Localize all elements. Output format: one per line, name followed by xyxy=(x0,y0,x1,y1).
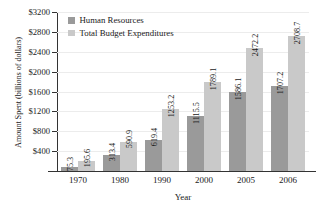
x-axis-tick-label: 2005 xyxy=(225,175,267,185)
bar: 2708.7 xyxy=(288,36,305,171)
y-axis-tick-label: $2800 xyxy=(29,27,50,37)
x-axis-tick-label: 2006 xyxy=(267,175,309,185)
bar-group: 1707.22708.7 xyxy=(267,12,309,171)
bar-value-label: 2472.2 xyxy=(246,34,255,57)
bar: 313.4 xyxy=(103,155,120,171)
bar-chart-figure: Amount Spent (billions of dollars) $400$… xyxy=(0,0,324,214)
x-axis-tick-label: 1980 xyxy=(99,175,141,185)
bar-value-label: 313.4 xyxy=(103,143,112,161)
x-axis-tick-label: 2000 xyxy=(183,175,225,185)
bar: 1586.1 xyxy=(229,92,246,171)
x-axis-title: Year xyxy=(57,192,309,202)
bar-group: 1115.51789.1 xyxy=(183,12,225,171)
bar: 590.9 xyxy=(120,142,137,171)
y-axis-tick-label: $2000 xyxy=(29,67,50,77)
bar: 1707.2 xyxy=(271,86,288,171)
plot-area: $400$800$1200$1600$2000$2400$2800$3200 H… xyxy=(57,12,309,171)
bar-value-label: 1586.1 xyxy=(229,78,238,101)
bar: 2472.2 xyxy=(246,48,263,171)
bar-value-label: 1115.5 xyxy=(187,102,196,124)
bar: 619.4 xyxy=(145,140,162,171)
y-axis-tick-label: $2400 xyxy=(29,47,50,57)
bar-group: 75.3195.6 xyxy=(57,12,99,171)
bar-group: 1586.12472.2 xyxy=(225,12,267,171)
bar-value-label: 1253.2 xyxy=(162,94,171,117)
bar-group: 619.41253.2 xyxy=(141,12,183,171)
y-axis-title: Amount Spent (billions of dollars) xyxy=(14,13,23,173)
bar-value-label: 75.3 xyxy=(61,157,70,171)
x-axis-tick-label: 1990 xyxy=(141,175,183,185)
y-axis-tick-label: $400 xyxy=(33,146,50,156)
bar: 1115.5 xyxy=(187,116,204,171)
y-axis-tick-label: $1600 xyxy=(29,87,50,97)
bar: 195.6 xyxy=(78,161,95,171)
bar-groups: 75.3195.6313.4590.9619.41253.21115.51789… xyxy=(57,12,309,171)
bar-value-label: 2708.7 xyxy=(288,22,297,45)
bar-group: 313.4590.9 xyxy=(99,12,141,171)
bar-value-label: 195.6 xyxy=(78,149,87,167)
bar-value-label: 1707.2 xyxy=(271,72,280,95)
bar: 1253.2 xyxy=(162,109,179,171)
x-axis-tick-label: 1970 xyxy=(57,175,99,185)
bar: 75.3 xyxy=(61,167,78,171)
bar-value-label: 1789.1 xyxy=(204,68,213,91)
bar-value-label: 619.4 xyxy=(145,128,154,146)
x-axis-line xyxy=(48,171,316,172)
x-axis-tick-labels: 197019801990200020052006 xyxy=(57,175,309,185)
bar-value-label: 590.9 xyxy=(120,129,129,147)
y-axis-tick-label: $1200 xyxy=(29,106,50,116)
bar: 1789.1 xyxy=(204,82,221,171)
y-axis-tick-label: $3200 xyxy=(29,7,50,17)
y-axis-tick-label: $800 xyxy=(33,126,50,136)
